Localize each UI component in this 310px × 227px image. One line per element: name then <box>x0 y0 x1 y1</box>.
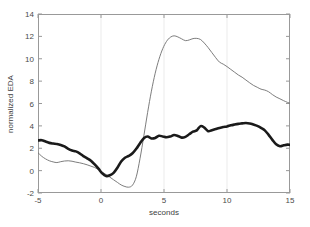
y-tick-label: 10 <box>25 55 34 64</box>
y-tick-label: 12 <box>25 32 34 41</box>
y-tick-label: 4 <box>30 122 35 131</box>
x-axis-title: seconds <box>149 208 179 217</box>
y-tick-label: 8 <box>30 77 35 86</box>
y-tick-label: -2 <box>27 189 35 198</box>
y-axis-title: normalized EDA <box>6 74 15 132</box>
x-tick-label: 10 <box>223 196 232 205</box>
chart-figure: -5051015 -202468101214 seconds normalize… <box>0 0 310 227</box>
x-tick-label: 5 <box>162 196 167 205</box>
x-tick-label: -5 <box>34 196 42 205</box>
line-chart: -5051015 -202468101214 seconds normalize… <box>0 0 310 227</box>
y-tick-label: 14 <box>25 10 34 19</box>
y-tick-label: 2 <box>30 144 35 153</box>
y-tick-label: 6 <box>30 100 35 109</box>
x-tick-label: 0 <box>99 196 104 205</box>
y-tick-label: 0 <box>30 167 35 176</box>
x-tick-label: 15 <box>286 196 295 205</box>
